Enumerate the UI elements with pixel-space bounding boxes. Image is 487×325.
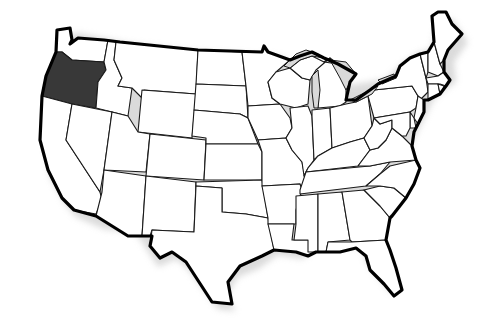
state-north-dakota[interactable] [196, 50, 246, 86]
map-svg [0, 0, 487, 325]
state-wyoming[interactable] [138, 90, 196, 138]
lake-michigan [312, 70, 320, 108]
state-colorado[interactable] [146, 134, 206, 180]
state-new-mexico[interactable] [142, 176, 196, 236]
us-map [0, 0, 487, 325]
state-kansas[interactable] [204, 144, 262, 180]
